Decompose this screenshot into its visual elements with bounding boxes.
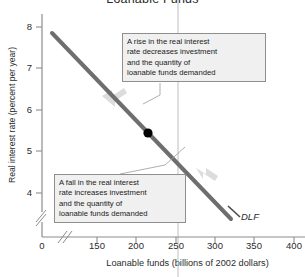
x-tick-label-350: 350 xyxy=(239,241,269,251)
y-tick-label-5: 5 xyxy=(12,146,32,156)
annotation-fall: A fall in the real interest rate increas… xyxy=(54,174,186,223)
x-tick-label-250: 250 xyxy=(161,241,191,251)
annotation-rise: A rise in the real interest rate decreas… xyxy=(122,33,266,82)
x-tick-label-300: 300 xyxy=(200,241,230,251)
annotation-rise-line-1: A rise in the real interest xyxy=(127,37,261,47)
x-tick-label-0: 0 xyxy=(27,241,57,251)
y-tick-7-wrap: 7 xyxy=(10,63,32,64)
annotation-rise-line-4: loanable funds demanded xyxy=(127,68,261,78)
y-tick-4-wrap: 4 xyxy=(10,188,32,189)
annotation-rise-line-2: rate decreases investment xyxy=(127,47,261,57)
y-tick-5-wrap: 5 xyxy=(10,146,32,147)
annotation-rise-line-3: and the quantity of xyxy=(127,58,261,68)
y-tick-marks xyxy=(36,27,42,193)
y-tick-6-wrap: 6 xyxy=(10,105,32,106)
y-tick-label-7: 7 xyxy=(12,63,32,73)
y-tick-label-4: 4 xyxy=(12,188,32,198)
equilibrium-point xyxy=(143,128,152,137)
annotation-fall-line-2: rate increases investment xyxy=(59,188,181,198)
x-tick-label-150: 150 xyxy=(82,241,112,251)
annotation-fall-line-4: loanable funds demanded xyxy=(59,209,181,219)
y-tick-8-wrap: 8 xyxy=(10,22,32,23)
y-axis-break-icon xyxy=(36,210,46,226)
y-tick-label-6: 6 xyxy=(12,105,32,115)
leader-line-rise xyxy=(143,83,160,104)
x-tick-label-400: 400 xyxy=(279,241,305,251)
annotation-fall-line-1: A fall in the real interest xyxy=(59,178,181,188)
x-tick-label-200: 200 xyxy=(121,241,151,251)
y-tick-label-8: 8 xyxy=(12,22,32,32)
chart-figure: Loanable Funds Real interest rate (perce… xyxy=(0,0,305,277)
dlf-curve-label: DLF xyxy=(241,211,259,222)
arrow-down-right-icon xyxy=(196,168,218,181)
annotation-fall-line-3: and the quantity of xyxy=(59,199,181,209)
